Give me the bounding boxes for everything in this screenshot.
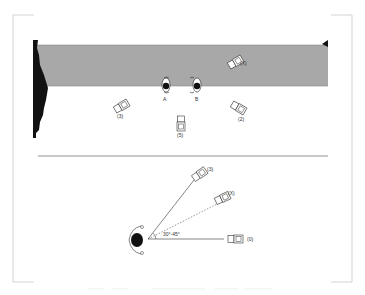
subject-b-label: B [195, 96, 198, 102]
sightline-x [148, 204, 217, 239]
camera-straight [228, 235, 243, 243]
camera-center [177, 116, 185, 131]
camera-straight-label: (0) [247, 236, 253, 242]
camera-center-label: (5) [177, 132, 183, 138]
figure: (X) A B (3) (5) (2) (3) (X) (0) 30°-45° [0, 0, 365, 295]
camera-upper-label: (3) [207, 166, 213, 172]
diagram-canvas [0, 0, 365, 295]
angle-label: 30°-45° [163, 231, 180, 237]
camera-left [113, 99, 130, 113]
camera-left-label: (3) [117, 113, 123, 119]
camera-right [230, 101, 247, 115]
observer [129, 226, 144, 255]
camera-x-label: (X) [228, 190, 235, 196]
camera-upper [191, 167, 208, 182]
subject-a-label: A [163, 96, 166, 102]
camera-x-top-label: (X) [240, 60, 247, 66]
camera-right-label: (2) [238, 116, 244, 122]
stage-band [34, 45, 328, 86]
